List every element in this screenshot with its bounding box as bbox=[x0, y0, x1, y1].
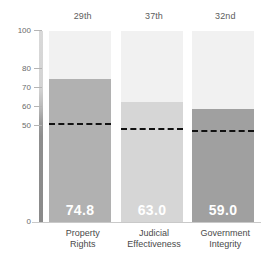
y-tick-label-60: 60 bbox=[22, 102, 31, 112]
plot-area: 74.8 63.0 59.0 bbox=[47, 31, 261, 222]
column-judicial-effectiveness: 63.0 bbox=[121, 31, 183, 222]
bar-judicial-effectiveness[interactable]: 63.0 bbox=[121, 102, 183, 222]
y-tick-mark-100 bbox=[34, 30, 42, 31]
rank-label-property-rights: 29th bbox=[47, 8, 118, 24]
y-tick-label-50: 50 bbox=[22, 121, 31, 131]
category-label-judicial-effectiveness-line2: Effectiveness bbox=[118, 239, 189, 250]
y-tick-label-100: 100 bbox=[18, 26, 31, 36]
rank-header-row: 29th 37th 32nd bbox=[47, 8, 261, 24]
y-tick-label-80: 80 bbox=[22, 64, 31, 74]
bar-value-government-integrity: 59.0 bbox=[192, 202, 254, 218]
category-label-judicial-effectiveness: Judicial Effectiveness bbox=[118, 227, 189, 259]
y-tick-mark-70 bbox=[34, 87, 42, 88]
y-tick-60: 60 bbox=[0, 102, 44, 112]
column-property-rights: 74.8 bbox=[49, 31, 111, 222]
reference-line-property-rights bbox=[49, 123, 111, 125]
category-label-government-integrity-line2: Integrity bbox=[190, 239, 261, 250]
bar-government-integrity[interactable]: 59.0 bbox=[192, 109, 254, 222]
category-label-judicial-effectiveness-line1: Judicial bbox=[118, 228, 189, 239]
y-tick-mark-50 bbox=[34, 125, 42, 126]
bar-value-property-rights: 74.8 bbox=[49, 202, 111, 218]
bar-value-judicial-effectiveness: 63.0 bbox=[121, 202, 183, 218]
category-label-property-rights-line2: Rights bbox=[47, 239, 118, 250]
x-axis-baseline bbox=[32, 222, 261, 223]
reference-line-judicial-effectiveness bbox=[121, 128, 183, 130]
category-label-government-integrity: Government Integrity bbox=[190, 227, 261, 259]
y-tick-50: 50 bbox=[0, 121, 44, 131]
rule-of-law-bar-chart: 29th 37th 32nd 100 80 70 60 50 0 bbox=[0, 0, 263, 262]
category-label-government-integrity-line1: Government bbox=[190, 228, 261, 239]
y-tick-mark-80 bbox=[34, 68, 42, 69]
category-label-row: Property Rights Judicial Effectiveness G… bbox=[47, 227, 261, 259]
bar-property-rights[interactable]: 74.8 bbox=[49, 79, 111, 222]
category-label-property-rights-line1: Property bbox=[47, 228, 118, 239]
rank-label-judicial-effectiveness: 37th bbox=[118, 8, 189, 24]
y-tick-80: 80 bbox=[0, 64, 44, 74]
y-tick-100: 100 bbox=[0, 26, 44, 36]
rank-label-government-integrity: 32nd bbox=[190, 8, 261, 24]
reference-line-government-integrity bbox=[192, 130, 254, 132]
y-tick-70: 70 bbox=[0, 83, 44, 93]
y-tick-label-70: 70 bbox=[22, 83, 31, 93]
column-government-integrity: 59.0 bbox=[192, 31, 254, 222]
y-tick-label-0: 0 bbox=[27, 217, 31, 227]
y-tick-mark-60 bbox=[34, 106, 42, 107]
category-label-property-rights: Property Rights bbox=[47, 227, 118, 259]
